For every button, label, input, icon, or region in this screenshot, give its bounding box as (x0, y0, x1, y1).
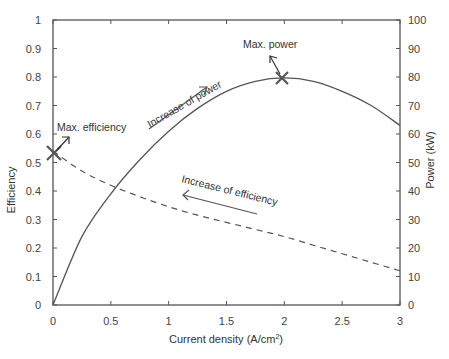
y-tick-label: 0.2 (26, 242, 41, 254)
efficiency-series-line (53, 151, 400, 271)
y2-tick-label: 40 (408, 185, 420, 197)
y-axis-label: Efficiency (5, 166, 17, 213)
y-tick-label: 0.5 (26, 157, 41, 169)
y2-tick-label: 80 (408, 71, 420, 83)
x-axis-label: Current density (A/cm2) (169, 333, 283, 345)
annotation-max-efficiency: Max. efficiency (57, 121, 127, 133)
x-tick-label: 0 (50, 315, 56, 327)
y-tick-label: 0.8 (26, 71, 41, 83)
y-tick-label: 0.3 (26, 214, 41, 226)
x-tick-label: 2 (281, 315, 287, 327)
x-axis-ticks: 00.511.522.53 (50, 20, 403, 327)
y-tick-label: 0.7 (26, 100, 41, 112)
plot-frame (53, 20, 400, 305)
arrow-icon (270, 56, 280, 74)
chart-canvas: 00.511.522.53 00.10.20.30.40.50.60.70.80… (0, 0, 449, 359)
x-tick-label: 2.5 (335, 315, 350, 327)
y-tick-label: 0.6 (26, 128, 41, 140)
y2-tick-label: 90 (408, 43, 420, 55)
y-tick-label: 0.4 (26, 185, 41, 197)
annotation-increase-efficiency: Increase of efficiency (181, 172, 280, 208)
y2-tick-label: 70 (408, 100, 420, 112)
y2-axis-label: Power (kW) (424, 131, 436, 188)
y2-tick-label: 60 (408, 128, 420, 140)
x-tick-label: 0.5 (103, 315, 118, 327)
annotation-max-power: Max. power (243, 38, 298, 50)
y2-tick-label: 30 (408, 214, 420, 226)
y-tick-label: 0 (35, 299, 41, 311)
arrow-icon (57, 137, 69, 150)
x-tick-label: 1 (166, 315, 172, 327)
x-tick-label: 1.5 (219, 315, 234, 327)
y-tick-label: 0.9 (26, 43, 41, 55)
x-tick-label: 3 (397, 315, 403, 327)
y2-tick-label: 10 (408, 271, 420, 283)
y2-tick-label: 100 (408, 14, 426, 26)
y2-tick-label: 20 (408, 242, 420, 254)
y2-tick-label: 0 (408, 299, 414, 311)
y-tick-label: 1 (35, 14, 41, 26)
y-tick-label: 0.1 (26, 271, 41, 283)
y-axis-ticks: 00.10.20.30.40.50.60.70.80.91 (26, 14, 57, 311)
y2-tick-label: 50 (408, 157, 420, 169)
